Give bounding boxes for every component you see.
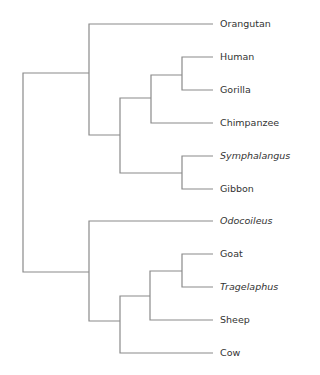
leaf-label-symphalangus: Symphalangus — [220, 150, 290, 162]
goat-tragelaphus-branch — [182, 254, 213, 287]
leaf-label-cow: Cow — [220, 347, 240, 359]
leaf-label-gorilla: Gorilla — [220, 84, 251, 96]
leaf-label-sheep: Sheep — [220, 314, 250, 326]
gibbon-clade-branch — [182, 156, 213, 189]
root-branch — [23, 73, 89, 272]
bovid-clade-branch — [120, 296, 213, 353]
leaf-label-tragelaphus: Tragelaphus — [220, 281, 278, 293]
leaf-label-goat: Goat — [220, 248, 243, 260]
leaf-label-chimpanzee: Chimpanzee — [220, 117, 279, 129]
leaf-label-human: Human — [220, 51, 254, 63]
leaf-label-gibbon: Gibbon — [220, 183, 254, 195]
leaf-label-orangutan: Orangutan — [220, 18, 271, 30]
human-gorilla-branch — [182, 57, 213, 90]
leaf-label-odocoileus: Odocoileus — [220, 215, 272, 227]
